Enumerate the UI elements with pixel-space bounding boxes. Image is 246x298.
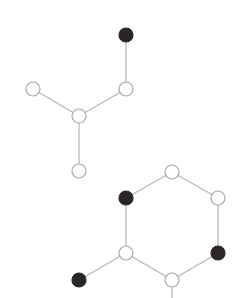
filled-atom-node: [211, 246, 225, 260]
open-atom-node: [165, 165, 179, 179]
open-atom-node: [165, 273, 179, 287]
open-atom-node: [119, 82, 133, 96]
filled-atom-node: [119, 28, 133, 42]
open-atom-node: [72, 164, 86, 178]
bond-edge: [79, 89, 126, 116]
open-atom-node: [72, 109, 86, 123]
molecule-diagram: [0, 0, 246, 298]
open-atom-node: [119, 246, 133, 260]
bond-edge: [172, 253, 218, 280]
open-atom-node: [211, 191, 225, 205]
filled-atom-node: [119, 191, 133, 205]
bond-edge: [126, 172, 172, 198]
bond-edge: [79, 253, 126, 280]
bond-edge: [126, 253, 172, 280]
bond-edge: [172, 172, 218, 198]
open-atom-node: [26, 82, 40, 96]
bond-edge: [33, 89, 79, 116]
filled-atom-node: [72, 273, 86, 287]
